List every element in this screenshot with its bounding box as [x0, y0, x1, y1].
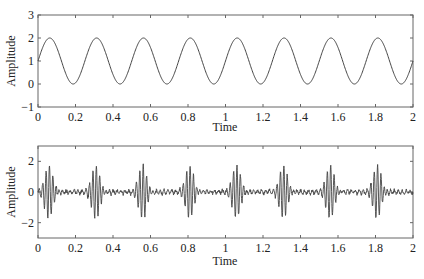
x-tick-label: 1.4: [293, 110, 308, 124]
top-y-ticks: −10123: [21, 8, 413, 114]
x-tick-label: 0.6: [143, 110, 158, 124]
x-tick-label: 0.4: [106, 110, 121, 124]
top-y-axis-label: Amplitude: [4, 35, 18, 86]
top-x-axis-label: Time: [213, 120, 238, 134]
x-tick-label: 0.2: [68, 110, 83, 124]
x-tick-label: 0.2: [68, 241, 83, 255]
y-tick-label: 1: [28, 54, 34, 68]
top-signal-line: [38, 38, 413, 84]
y-tick-label: 0: [28, 185, 34, 199]
x-tick-label: 2: [410, 110, 416, 124]
bottom-x-axis-label: Time: [213, 254, 238, 268]
y-tick-label: 2: [28, 154, 34, 168]
x-tick-label: 2: [410, 241, 416, 255]
x-tick-label: 0.8: [181, 241, 196, 255]
x-tick-label: 1.2: [256, 241, 271, 255]
bottom-y-axis-label: Amplitude: [4, 166, 18, 217]
top-plot: 00.20.40.60.811.21.41.61.82 −10123 Time …: [4, 8, 416, 134]
x-tick-label: 0.4: [106, 241, 121, 255]
y-tick-label: −2: [21, 216, 34, 230]
x-tick-label: 1.8: [368, 241, 383, 255]
top-x-ticks: 00.20.40.60.811.21.41.61.82: [35, 15, 416, 124]
y-tick-label: 0: [28, 77, 34, 91]
x-tick-label: 1.6: [331, 241, 346, 255]
x-tick-label: 0.8: [181, 110, 196, 124]
x-tick-label: 0.6: [143, 241, 158, 255]
x-tick-label: 0: [35, 110, 41, 124]
bottom-signal-line: [38, 164, 413, 218]
x-tick-label: 1.8: [368, 110, 383, 124]
x-tick-label: 1.6: [331, 110, 346, 124]
x-tick-label: 1: [223, 241, 229, 255]
bottom-plot: 00.20.40.60.811.21.41.61.82 −202 Time Am…: [4, 146, 416, 268]
figure: 00.20.40.60.811.21.41.61.82 −10123 Time …: [0, 0, 424, 279]
y-tick-label: 2: [28, 31, 34, 45]
y-tick-label: −1: [21, 100, 34, 114]
y-tick-label: 3: [28, 8, 34, 22]
x-tick-label: 0: [35, 241, 41, 255]
x-tick-label: 1.4: [293, 241, 308, 255]
x-tick-label: 1.2: [256, 110, 271, 124]
